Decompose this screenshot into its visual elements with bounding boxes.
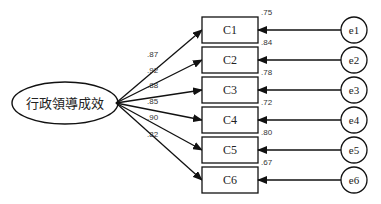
indicator-label: C5 (223, 143, 237, 157)
error-e5: e5 (258, 137, 367, 163)
error-label: e3 (349, 84, 360, 96)
factor-loadings: .87.92.88.85.90.82 (116, 30, 202, 180)
error-label: e4 (349, 114, 360, 126)
latent-label: 行政領導成效 (26, 96, 104, 111)
error-label: e5 (349, 144, 360, 156)
residual-value: .84 (261, 38, 273, 47)
loading-arrow (116, 103, 202, 150)
loading-arrow (116, 103, 202, 120)
loading-value: .85 (147, 97, 159, 106)
loading-arrow (116, 103, 202, 180)
latent-factor: 行政領導成效 (12, 82, 118, 124)
loading-value: .92 (147, 66, 159, 75)
indicator-label: C6 (223, 173, 237, 187)
indicator-label: C1 (223, 23, 237, 37)
error-e6: e6 (258, 167, 367, 193)
error-label: e1 (349, 24, 359, 36)
cfa-diagram: 行政領導成效 .87.92.88.85.90.82 C1.75C2.84C3.7… (0, 0, 381, 204)
error-e4: e4 (258, 107, 367, 133)
error-e3: e3 (258, 77, 367, 103)
error-terms: e1e2e3e4e5e6 (258, 17, 367, 193)
error-e1: e1 (258, 17, 367, 43)
indicator-label: C2 (223, 53, 237, 67)
residual-value: .75 (261, 8, 273, 17)
error-label: e2 (349, 54, 359, 66)
loading-value: .87 (147, 50, 159, 59)
residual-value: .80 (261, 128, 273, 137)
error-e2: e2 (258, 47, 367, 73)
loading-value: .82 (147, 130, 159, 139)
loading-value: .88 (147, 81, 159, 90)
loading-value: .90 (147, 113, 159, 122)
residual-value: .72 (261, 98, 273, 107)
indicator-boxes: C1.75C2.84C3.78C4.72C5.80C6.67 (202, 8, 273, 193)
residual-value: .78 (261, 68, 273, 77)
indicator-label: C4 (223, 113, 237, 127)
residual-value: .67 (261, 158, 273, 167)
error-label: e6 (349, 174, 360, 186)
indicator-label: C3 (223, 83, 237, 97)
